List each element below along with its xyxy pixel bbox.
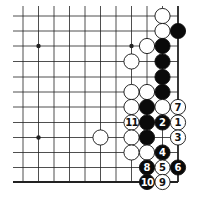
white-stone <box>93 130 108 145</box>
black-stone-move-2: 2 <box>155 115 170 130</box>
move-number: 5 <box>159 162 166 173</box>
white-stone <box>139 38 154 53</box>
white-stone <box>124 145 139 160</box>
move-number: 3 <box>175 132 182 143</box>
white-stone <box>155 8 170 23</box>
move-number: 2 <box>159 117 166 128</box>
move-number: 9 <box>159 177 166 188</box>
black-stone-move-6: 6 <box>170 160 185 175</box>
white-stone-move-5: 5 <box>155 160 170 175</box>
black-stone <box>155 38 170 53</box>
move-number: 11 <box>125 117 138 128</box>
move-number: 7 <box>175 102 182 113</box>
white-stone-move-9: 9 <box>155 174 170 189</box>
move-number: 1 <box>175 117 182 128</box>
black-stone <box>139 115 154 130</box>
black-stone <box>139 99 154 114</box>
white-stone-move-7: 7 <box>170 99 185 114</box>
star-point <box>129 44 133 48</box>
black-stone-move-10: 10 <box>139 174 154 189</box>
black-stone <box>170 23 185 38</box>
move-number: 10 <box>141 177 154 188</box>
white-stone-move-3: 3 <box>170 130 185 145</box>
move-number: 8 <box>144 162 151 173</box>
black-stone <box>155 84 170 99</box>
stones: 7112134856109 <box>93 8 186 189</box>
white-stone <box>155 99 170 114</box>
white-stone-move-1: 1 <box>170 115 185 130</box>
star-point <box>36 135 40 139</box>
white-stone-move-11: 11 <box>124 115 139 130</box>
white-stone <box>124 84 139 99</box>
white-stone <box>124 99 139 114</box>
black-stone-move-8: 8 <box>139 160 154 175</box>
black-stone-move-4: 4 <box>155 145 170 160</box>
star-point <box>36 44 40 48</box>
move-number: 4 <box>159 147 166 158</box>
white-stone <box>124 130 139 145</box>
white-stone <box>139 84 154 99</box>
black-stone <box>155 69 170 84</box>
black-stone <box>139 130 154 145</box>
white-stone <box>124 54 139 69</box>
white-stone <box>139 145 154 160</box>
move-number: 6 <box>175 162 182 173</box>
black-stone <box>155 54 170 69</box>
white-stone <box>155 23 170 38</box>
go-board: 7112134856109 <box>0 0 197 198</box>
